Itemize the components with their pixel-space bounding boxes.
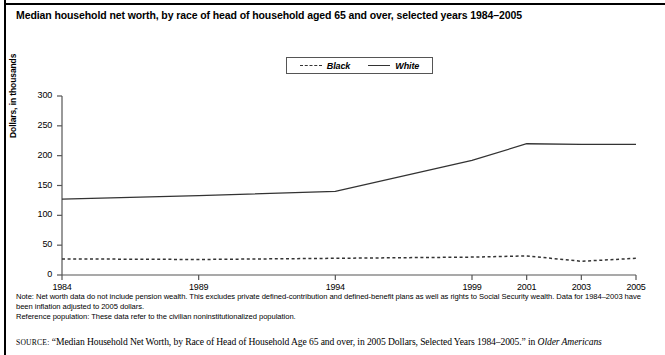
x-axis-tick-label: 1984 (42, 282, 82, 292)
source-line: SOURCE: “Median Household Net Worth, by … (16, 336, 664, 349)
note-text: Note: Net worth data do not include pens… (16, 292, 656, 312)
y-axis-tick-label: 0 (22, 269, 52, 279)
reference-population-text: Reference population: These data refer t… (16, 312, 656, 322)
chart-plot-area: Dollars, in thousands 050100150200250300… (0, 0, 665, 300)
y-axis-tick-label: 200 (22, 150, 52, 160)
x-axis-tick-label: 1989 (179, 282, 219, 292)
x-axis-tick-label: 2001 (507, 282, 547, 292)
x-axis-tick-label: 1994 (315, 282, 355, 292)
y-axis-tick-label: 50 (22, 239, 52, 249)
source-label: SOURCE: (16, 338, 49, 347)
y-axis-tick-label: 150 (22, 180, 52, 190)
x-axis-tick-label: 1999 (452, 282, 492, 292)
source-text: “Median Household Net Worth, by Race of … (52, 336, 538, 347)
y-axis-tick-label: 250 (22, 120, 52, 130)
series-line-black (62, 256, 636, 261)
x-axis-tick-label: 2003 (561, 282, 601, 292)
source-publication: Older Americans (538, 336, 602, 347)
line-chart-svg (0, 0, 665, 300)
chart-notes: Note: Net worth data do not include pens… (16, 292, 656, 323)
series-line-white (62, 144, 636, 199)
x-axis-tick-label: 2005 (616, 282, 656, 292)
y-axis-tick-label: 300 (22, 90, 52, 100)
y-axis-tick-label: 100 (22, 209, 52, 219)
